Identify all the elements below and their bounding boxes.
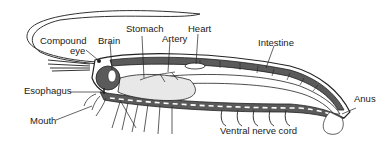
label-compound-eye-line2: eye [70,46,85,56]
crustacean-anatomy-diagram: Compound eye Brain Stomach Artery Heart … [0,0,388,154]
label-esophagus: Esophagus [24,86,72,96]
label-mouth: Mouth [30,116,56,126]
label-anus: Anus [354,94,376,104]
label-stomach: Stomach [126,24,164,34]
label-intestine: Intestine [258,38,294,48]
label-artery: Artery [162,34,187,44]
heart [185,63,205,69]
swimmerets [221,110,290,126]
label-ventral-nerve-cord: Ventral nerve cord [220,126,297,136]
antennules [48,60,90,71]
label-heart: Heart [188,24,211,34]
label-brain: Brain [98,36,120,46]
